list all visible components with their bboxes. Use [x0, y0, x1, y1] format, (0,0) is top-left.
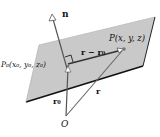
point-p-label: P(x, y, z): [108, 33, 145, 43]
r-label: r: [96, 86, 101, 96]
point-p: [122, 47, 126, 51]
plane-diagram: n P(x, y, z) r − r₀ P₀(x₀, y₀, z₀) r₀ r …: [0, 0, 160, 137]
difference-label: r − r₀: [81, 47, 106, 57]
point-p0-label: P₀(x₀, y₀, z₀): [0, 60, 46, 69]
r0-label: r₀: [53, 96, 61, 106]
point-p0: [67, 65, 70, 68]
normal-label: n: [62, 9, 69, 19]
origin-label: O: [61, 119, 69, 129]
normal-arrowhead-icon: [49, 14, 56, 21]
